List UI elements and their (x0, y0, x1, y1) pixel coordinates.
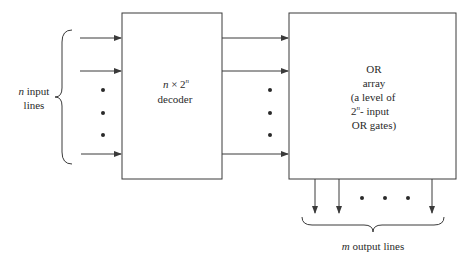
decoder-label-line2: decoder (158, 93, 193, 105)
input-ellipsis-dot (101, 133, 105, 137)
output-ellipsis-dot (360, 196, 364, 200)
decoder-label-line1: n × 2n (163, 77, 190, 90)
input-brace (55, 30, 72, 164)
or-array-label-line3: (a level of (351, 91, 396, 104)
decoder-or-array-diagram: n input lines n × 2n decoder OR array (a… (0, 0, 472, 265)
or-array-label-line5: OR gates) (352, 119, 397, 132)
output-label: m output lines (342, 240, 404, 252)
output-ellipsis-dot (406, 196, 410, 200)
or-array-label-line2: array (363, 77, 386, 89)
input-ellipsis-dot (101, 111, 105, 115)
output-brace (302, 217, 444, 232)
input-ellipsis-dot (101, 88, 105, 92)
or-array-label-line4: 2n- input (351, 104, 389, 117)
minterm-ellipsis-dot (268, 88, 272, 92)
or-array-label-line1: OR (366, 63, 382, 75)
minterm-ellipsis-dot (268, 133, 272, 137)
output-ellipsis-dot (383, 196, 387, 200)
minterm-ellipsis-dot (268, 111, 272, 115)
input-label-line1: n input (19, 85, 50, 97)
input-label-line2: lines (24, 99, 45, 111)
